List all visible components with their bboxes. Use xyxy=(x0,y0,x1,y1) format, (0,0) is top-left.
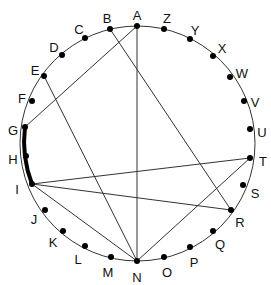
label-n: N xyxy=(132,270,141,285)
label-u: U xyxy=(257,125,266,140)
label-x: X xyxy=(218,41,227,56)
label-z: Z xyxy=(163,11,171,26)
label-h: H xyxy=(8,152,17,167)
label-w: W xyxy=(236,66,249,81)
point-z xyxy=(161,26,167,32)
label-r: R xyxy=(235,215,244,230)
point-f xyxy=(29,98,35,104)
point-n xyxy=(134,258,140,264)
point-u xyxy=(247,126,253,132)
point-i xyxy=(29,181,35,187)
label-s: S xyxy=(251,186,260,201)
label-p: P xyxy=(190,255,199,270)
label-e: E xyxy=(31,63,40,78)
label-c: C xyxy=(74,22,83,37)
label-o: O xyxy=(162,265,172,280)
point-r xyxy=(228,207,234,213)
label-k: K xyxy=(49,235,58,250)
chord-i-t xyxy=(32,158,250,184)
point-h xyxy=(23,153,29,159)
label-f: F xyxy=(18,91,26,106)
point-m xyxy=(108,254,114,260)
point-k xyxy=(60,228,66,234)
point-x xyxy=(210,53,216,59)
point-j xyxy=(42,207,48,213)
point-a xyxy=(134,23,140,29)
point-v xyxy=(241,98,247,104)
label-v: V xyxy=(251,95,260,110)
chords-group xyxy=(25,26,250,261)
label-t: T xyxy=(259,154,267,169)
point-t xyxy=(247,155,253,161)
label-j: J xyxy=(31,212,38,227)
label-m: M xyxy=(103,265,114,280)
label-y: Y xyxy=(191,23,200,38)
label-l: L xyxy=(74,252,81,267)
label-q: Q xyxy=(215,237,225,252)
point-p xyxy=(187,244,193,250)
label-d: D xyxy=(49,40,58,55)
point-l xyxy=(82,243,88,249)
point-g xyxy=(22,124,28,130)
label-i: I xyxy=(15,182,19,197)
point-b xyxy=(107,26,113,32)
label-a: A xyxy=(133,8,142,23)
circle-chord-diagram: ABCDEFGHIJKLMNOPQRSTUVWXYZ xyxy=(0,0,271,285)
chord-e-n xyxy=(44,76,137,261)
point-o xyxy=(161,254,167,260)
label-g: G xyxy=(8,123,18,138)
point-e xyxy=(41,73,47,79)
point-d xyxy=(59,52,65,58)
point-w xyxy=(227,74,233,80)
point-q xyxy=(210,228,216,234)
point-s xyxy=(240,182,246,188)
label-b: B xyxy=(103,11,112,26)
